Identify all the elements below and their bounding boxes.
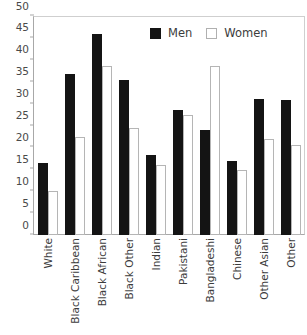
bar-men[interactable] <box>65 74 75 235</box>
bar-men[interactable] <box>254 99 264 235</box>
bar-group <box>224 16 251 235</box>
y-axis-tick-label: 45 <box>16 22 34 33</box>
bar-group <box>251 16 278 235</box>
chart-legend: MenWomen <box>150 28 268 40</box>
bar-women[interactable] <box>48 191 58 235</box>
bar-group <box>88 16 115 235</box>
bar-men[interactable] <box>281 100 291 235</box>
bar-group <box>278 16 305 235</box>
y-axis-tick-label: 25 <box>16 110 34 121</box>
bar-group <box>197 16 224 235</box>
bar-women[interactable] <box>183 115 193 235</box>
x-axis-label-cell: Other <box>278 238 305 333</box>
x-axis-tick-label: White <box>42 238 53 269</box>
bar-women[interactable] <box>102 66 112 236</box>
y-axis-tick-label: 50 <box>16 0 34 11</box>
bar-chart: 05101520253035404550 WhiteBlack Caribbea… <box>0 0 307 335</box>
bar-women[interactable] <box>210 66 220 236</box>
bar-men[interactable] <box>119 80 129 235</box>
x-axis-tick-label: Indian <box>151 238 162 270</box>
x-axis-label-cell: Black African <box>88 238 115 333</box>
x-axis-tick-label: Pakistani <box>178 238 189 285</box>
bar-women[interactable] <box>156 165 166 235</box>
x-axis-tick-label: Black African <box>96 238 107 306</box>
x-axis-tick-label: Other Asian <box>259 238 270 300</box>
bar-women[interactable] <box>291 145 301 235</box>
bar-group <box>34 16 61 235</box>
bar-women[interactable] <box>237 170 247 235</box>
x-axis-tick-label: Other <box>286 238 297 268</box>
y-axis-tick-label: 20 <box>16 132 34 143</box>
x-axis-tick-label: Chinese <box>232 238 243 280</box>
y-axis-tick-label: 10 <box>16 175 34 186</box>
filled-square-icon <box>150 28 161 39</box>
clipped-title <box>14 0 214 3</box>
bar-women[interactable] <box>129 128 139 235</box>
x-axis-label-cell: Bangladeshi <box>197 238 224 333</box>
x-axis-label-cell: Black Other <box>115 238 142 333</box>
bar-men[interactable] <box>146 155 156 235</box>
y-axis-tick-label: 30 <box>16 88 34 99</box>
x-axis-tick-label: Bangladeshi <box>205 238 216 302</box>
x-axis-tick-label: Black Other <box>124 238 135 300</box>
y-axis-tick-label: 15 <box>16 154 34 165</box>
y-axis-tick-label: 40 <box>16 44 34 55</box>
x-axis-label-cell: Chinese <box>224 238 251 333</box>
bar-group <box>169 16 196 235</box>
x-axis-label-cell: White <box>34 238 61 333</box>
bar-men[interactable] <box>173 110 183 235</box>
outlined-square-icon <box>206 28 217 39</box>
x-axis-label-cell: Pakistani <box>169 238 196 333</box>
x-axis-label-cell: Other Asian <box>251 238 278 333</box>
bar-men[interactable] <box>92 34 102 235</box>
bar-men[interactable] <box>38 163 48 235</box>
bar-group <box>115 16 142 235</box>
y-axis-tick-label: 35 <box>16 66 34 77</box>
bar-women[interactable] <box>75 137 85 235</box>
y-axis-tick-label: 5 <box>22 197 34 208</box>
x-axis-tick-label: Black Caribbean <box>69 238 80 324</box>
bar-women[interactable] <box>264 139 274 235</box>
x-axis-label-cell: Black Caribbean <box>61 238 88 333</box>
legend-label: Women <box>224 28 267 40</box>
y-axis-tick-label: 0 <box>22 219 34 230</box>
bar-groups <box>34 16 305 235</box>
x-axis: WhiteBlack CaribbeanBlack AfricanBlack O… <box>34 238 305 333</box>
bar-men[interactable] <box>200 130 210 235</box>
legend-label: Men <box>168 28 192 40</box>
plot-area: 05101520253035404550 <box>34 16 305 235</box>
x-axis-label-cell: Indian <box>142 238 169 333</box>
bar-group <box>61 16 88 235</box>
legend-item-women[interactable]: Women <box>206 28 267 40</box>
bar-men[interactable] <box>227 161 237 235</box>
bar-group <box>142 16 169 235</box>
legend-item-men[interactable]: Men <box>150 28 192 40</box>
